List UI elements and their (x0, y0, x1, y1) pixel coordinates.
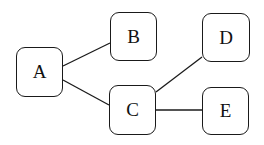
node-d: D (202, 13, 250, 62)
edge-c-d (156, 57, 202, 92)
edge-a-b (63, 43, 110, 66)
node-b: B (110, 12, 157, 61)
node-c: C (109, 85, 156, 135)
node-b-label: B (127, 26, 140, 48)
node-e-label: E (220, 100, 232, 122)
node-c-label: C (126, 99, 139, 121)
node-a-label: A (33, 61, 47, 83)
node-e: E (202, 87, 249, 135)
edge-a-c (63, 80, 109, 105)
node-d-label: D (219, 27, 233, 49)
node-a: A (16, 47, 63, 97)
